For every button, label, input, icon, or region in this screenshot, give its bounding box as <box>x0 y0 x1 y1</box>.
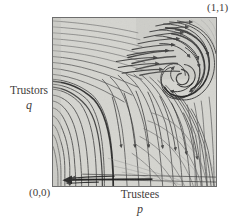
y-axis-label: Trustors <box>6 84 52 96</box>
y-axis-symbol: q <box>6 99 52 112</box>
plot-frame <box>52 17 217 187</box>
x-axis-label: Trustees <box>110 188 170 200</box>
phase-portrait-figure: Trustors q Trustees p (0,0) (1,1) <box>0 0 252 223</box>
x-axis-symbol: p <box>110 203 170 216</box>
streamline-plot <box>53 18 216 186</box>
origin-corner-label: (0,0) <box>29 187 50 199</box>
unit-corner-label: (1,1) <box>207 2 228 14</box>
